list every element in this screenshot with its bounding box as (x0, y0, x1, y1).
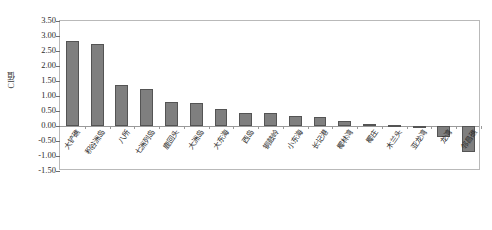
x-axis-tick-label-text: 铜鼓岭 (261, 129, 279, 151)
x-axis-tick-label-text: 小东海 (286, 129, 304, 151)
bar (91, 44, 104, 126)
y-axis-tick-mark (56, 51, 60, 52)
y-axis-tick-label: 0.00 (20, 120, 56, 130)
x-axis-tick-label-text: 亚龙湾 (410, 129, 428, 151)
x-axis-tick-label-text: 椰林湾 (336, 129, 354, 151)
x-axis-tick-label-text: 西岛 (241, 129, 255, 145)
y-axis-tick-label: 2.00 (20, 60, 56, 70)
y-axis-tick-mark (56, 66, 60, 67)
x-axis-tick-label-text: 邻昌礁 (460, 129, 478, 151)
y-axis-tick-label: -0.50 (20, 135, 56, 145)
y-axis-tick-label: -1.00 (20, 150, 56, 160)
x-axis-tick-label-text: 鹿回头 (162, 129, 180, 151)
y-axis-tick-label: -1.50 (20, 165, 56, 175)
x-axis-tick-label-text: 积谷洲岛 (84, 129, 106, 156)
bar (140, 89, 153, 127)
bar (215, 109, 228, 126)
y-axis-tick-label: 3.50 (20, 15, 56, 25)
bar (190, 103, 203, 126)
x-axis-tick-label-text: 长记港 (311, 129, 329, 151)
x-axis-tick-label-text: 大东海 (212, 129, 230, 151)
x-axis-tick-labels: 大铲礁积谷洲岛八所七洲列岛鹿回头大洲岛大东海西岛铜鼓岭小东海长记港椰林湾椰庄木兰… (59, 129, 480, 189)
y-axis-tick-label: 0.50 (20, 105, 56, 115)
y-axis-tick-label: 1.00 (20, 90, 56, 100)
y-axis-tick-mark (56, 111, 60, 112)
bar-chart: CI值 3.503.002.502.001.501.000.500.00-0.5… (0, 0, 492, 230)
bar (115, 85, 128, 126)
y-axis-tick-label: 3.00 (20, 30, 56, 40)
bar (264, 113, 277, 127)
y-axis-tick-mark (56, 36, 60, 37)
x-axis-tick-label-text: 大铲礁 (63, 129, 81, 151)
x-axis-tick-label-text: 七洲列岛 (134, 129, 156, 156)
y-axis-title: CI值 (2, 0, 20, 160)
y-axis-tick-mark (56, 126, 60, 127)
y-axis-tick-label: 1.50 (20, 75, 56, 85)
x-axis-tick-label-text: 龙湾 (439, 129, 453, 145)
x-axis-tick-label-text: 木兰头 (385, 129, 403, 151)
x-axis-tick-label-text: 八所 (117, 129, 131, 145)
bar (66, 41, 79, 127)
y-axis-tick-label: 2.50 (20, 45, 56, 55)
y-axis-tick-mark (56, 96, 60, 97)
x-axis-tick-label-text: 大洲岛 (187, 129, 205, 151)
y-axis-tick-mark (56, 81, 60, 82)
y-axis-title-text: CI值 (6, 71, 17, 89)
y-axis-tick-labels: 3.503.002.502.001.501.000.500.00-0.50-1.… (20, 20, 56, 170)
x-axis-tick-label-text: 椰庄 (365, 129, 379, 145)
y-axis-tick-mark (56, 21, 60, 22)
